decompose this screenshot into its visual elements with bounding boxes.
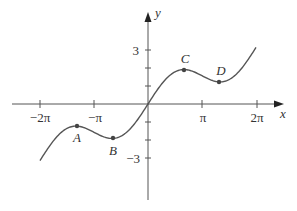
y-axis-label: y	[153, 5, 161, 20]
tick-label-2pi: 2π	[250, 110, 264, 125]
point-a-marker	[75, 124, 79, 128]
graph: −2π −π π 2π 3 −3 x y A B C D	[0, 0, 297, 211]
tick-label-neg-2pi: −2π	[30, 110, 51, 125]
tick-label-3: 3	[133, 43, 140, 58]
y-axis-arrow-icon	[145, 12, 152, 22]
point-a-label: A	[72, 130, 81, 145]
tick-label-neg-3: −3	[126, 151, 140, 166]
tick-label-pi: π	[200, 110, 207, 125]
x-axis-label: x	[279, 106, 286, 121]
point-b-marker	[111, 136, 115, 140]
point-d-label: D	[215, 63, 226, 78]
point-c-label: C	[181, 51, 190, 66]
point-b-label: B	[109, 143, 117, 158]
point-d-marker	[217, 80, 221, 84]
tick-label-neg-pi: −π	[88, 110, 102, 125]
point-c-marker	[182, 68, 186, 72]
